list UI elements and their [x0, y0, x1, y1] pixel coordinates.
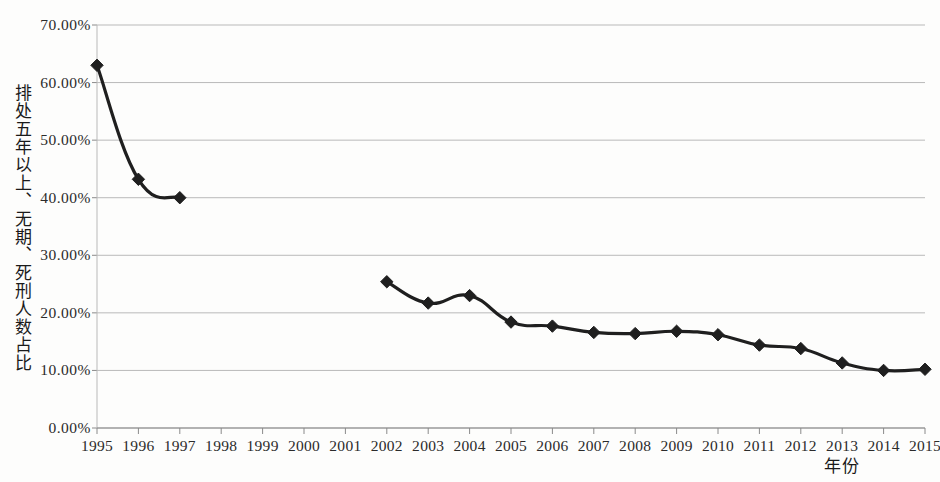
x-tick-label: 2006 [536, 437, 568, 455]
x-tick-label: 2003 [412, 437, 444, 455]
x-tick-label: 2008 [619, 437, 651, 455]
x-tick-label: 2002 [371, 437, 403, 455]
x-tick-label: 2010 [702, 437, 734, 455]
x-tick-label: 2012 [785, 437, 817, 455]
chart-container: 排处五年以上、无期、死刑人数占比 0.00%10.00%20.00%30.00%… [0, 0, 940, 482]
x-tick-label: 2000 [288, 437, 320, 455]
x-tick-label: 2014 [867, 437, 899, 455]
x-tick-label: 2015 [909, 437, 940, 455]
x-tick-label: 2001 [329, 437, 361, 455]
x-axis-tick-labels: 年份 1995199619971998199920002001200220032… [0, 0, 940, 482]
x-tick-label: 2009 [660, 437, 692, 455]
x-tick-label: 1995 [81, 437, 113, 455]
x-tick-label: 2013 [826, 437, 858, 455]
x-axis-title: 年份 [824, 452, 860, 477]
x-tick-label: 2005 [495, 437, 527, 455]
x-tick-label: 1999 [246, 437, 278, 455]
x-tick-label: 1996 [122, 437, 154, 455]
x-tick-label: 2007 [578, 437, 610, 455]
x-tick-label: 2011 [744, 437, 776, 455]
x-tick-label: 2004 [453, 437, 485, 455]
x-tick-label: 1997 [164, 437, 196, 455]
x-tick-label: 1998 [205, 437, 237, 455]
